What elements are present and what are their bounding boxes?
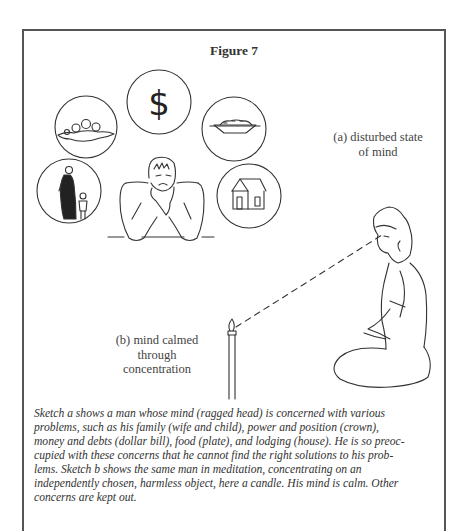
label-b-line-2: through	[102, 348, 212, 363]
family-icon	[37, 159, 101, 223]
caption-line: lems. Sketch b shows the same man in med…	[34, 463, 438, 477]
caption-line: Sketch a shows a man whose mind (ragged …	[34, 407, 438, 421]
svg-text:$: $	[148, 83, 170, 123]
label-b-line-1: (b) mind calmed	[102, 333, 212, 348]
caption-line: concerns are kept out.	[34, 491, 438, 505]
figure-frame: Figure 7 $	[22, 29, 446, 531]
label-disturbed-state: (a) disturbed state of mind	[318, 130, 438, 159]
crown-icon	[55, 96, 117, 158]
meditating-man-figure	[334, 207, 430, 387]
plate-icon	[202, 97, 266, 161]
label-mind-calmed: (b) mind calmed through concentration	[102, 333, 212, 377]
worried-man-figure	[108, 157, 214, 240]
caption-line: money and debts (dollar bill), food (pla…	[34, 435, 438, 449]
gaze-dashed-line	[236, 235, 382, 327]
house-icon	[217, 164, 281, 228]
label-a-line-2: of mind	[318, 145, 438, 160]
caption-line: problems, such as his family (wife and c…	[34, 421, 438, 435]
caption-line: cupied with these concerns that he canno…	[34, 449, 438, 463]
label-a-line-1: (a) disturbed state	[318, 130, 438, 145]
figure-caption: Sketch a shows a man whose mind (ragged …	[34, 407, 438, 505]
caption-line: independently chosen, harmless object, h…	[34, 477, 438, 491]
dollar-icon: $	[127, 70, 191, 134]
candle-icon	[228, 319, 236, 399]
label-b-line-3: concentration	[102, 362, 212, 377]
figure-illustration: $	[24, 31, 444, 411]
